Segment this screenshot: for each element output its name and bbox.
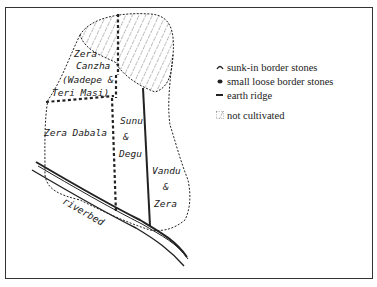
- earth-ridge-line: [143, 88, 150, 226]
- legend-item-earth-ridge: earth ridge: [213, 88, 333, 102]
- hatch-icon: [213, 111, 227, 119]
- svg-text:Vandu: Vandu: [152, 165, 181, 176]
- svg-text:(Wadepe &: (Wadepe &: [62, 74, 114, 85]
- legend-item-sunk-in: sunk-in border stones: [213, 60, 333, 74]
- riverbed-line-2: [38, 166, 188, 259]
- plot-label-sunu-degu: Sunu & Degu: [118, 115, 143, 159]
- svg-text:Sunu: Sunu: [120, 115, 143, 126]
- svg-text:Zera Dabala: Zera Dabala: [43, 127, 107, 138]
- legend-item-not-cultivated: not cultivated: [213, 108, 333, 122]
- svg-text:Teri Masi): Teri Masi): [52, 87, 109, 98]
- legend: sunk-in border stones small loose border…: [213, 60, 333, 122]
- field-plot-map: Zera Canzha (Wadepe & Teri Masi) Zera Da…: [0, 0, 377, 287]
- plot-label-vandu-zera: Vandu & Zera: [152, 165, 181, 209]
- plot-label-zera-dabala: Zera Dabala: [43, 127, 107, 138]
- svg-text:&: &: [122, 131, 129, 142]
- loose-stone-icon: [213, 79, 227, 84]
- legend-item-loose-stones: small loose border stones: [213, 74, 333, 88]
- svg-text:Canzha: Canzha: [76, 60, 111, 71]
- svg-text:Zera: Zera: [153, 198, 177, 209]
- svg-text:&: &: [162, 181, 169, 192]
- svg-text:Degu: Degu: [118, 148, 142, 159]
- svg-text:Zera: Zera: [73, 48, 97, 59]
- sunk-in-stone-icon: [213, 64, 227, 70]
- riverbed-line-3: [32, 170, 184, 266]
- riverbed-line-1: [36, 162, 187, 257]
- loose-stone-border-vertical-2: [112, 98, 116, 213]
- earth-ridge-icon: [213, 93, 227, 97]
